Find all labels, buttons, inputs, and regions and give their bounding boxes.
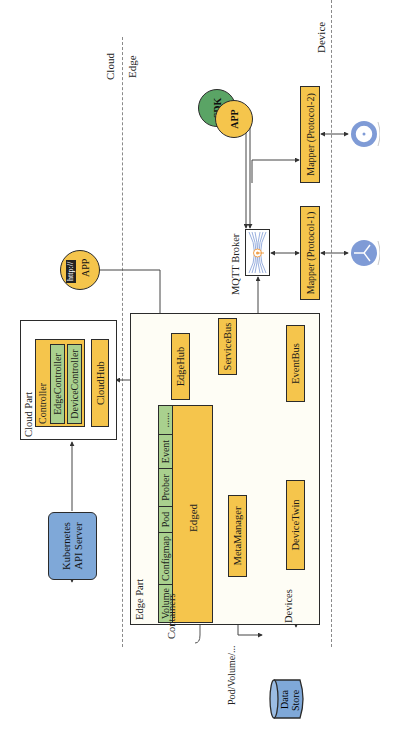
kubernetes-api-server: Kubernetes API Server [48, 512, 97, 580]
fan-device-icon [348, 236, 380, 268]
cloud-part-frame: Cloud Part Controller EdgeController Dev… [20, 320, 117, 440]
devicetwin-box: DeviceTwin [286, 480, 305, 570]
api-server-label: API Server [73, 523, 85, 570]
http-app-label: APP [80, 259, 91, 277]
data-store-line2: Store [290, 690, 301, 711]
mqtt-broker-label: MQTT Broker [230, 234, 241, 295]
edgehub-box: EdgeHub [171, 333, 190, 400]
mqtt-broker-icon [246, 230, 269, 275]
module-event: Event [159, 434, 173, 468]
module-configmap: Configmap [159, 532, 173, 584]
module-more: ...... [159, 406, 173, 434]
mapper-protocol-2: Mapper (Protocol-2) [300, 86, 320, 183]
cloudhub-box: CloudHub [91, 339, 109, 427]
edge-controller-box: EdgeController [50, 344, 65, 424]
servicebus-box: ServiceBus [218, 318, 237, 375]
module-prober: Prober [159, 468, 173, 506]
pod-volume-label: Pod/Volume/... [226, 645, 237, 705]
cloud-part-title: Cloud Part [23, 392, 34, 437]
device-controller-box: DeviceController [67, 344, 82, 424]
module-pod: Pod [159, 506, 173, 532]
edged-modules-row: Volume Configmap Pod Prober Event ...... [159, 406, 173, 622]
edged-box: Volume Configmap Pod Prober Event ......… [158, 405, 213, 623]
mapper-protocol-1: Mapper (Protocol-1) [300, 206, 320, 300]
containers-label: Containers [166, 594, 177, 640]
devices-label: Devices [283, 589, 294, 623]
controller-box: Controller EdgeController DeviceControll… [35, 339, 85, 427]
http-app-bubble: http:// APP [60, 250, 100, 290]
app-label: APP [229, 109, 240, 128]
mqtt-broker-box[interactable] [245, 229, 270, 276]
http-badge: http:// [66, 260, 76, 283]
edged-label: Edged [187, 504, 199, 532]
app-bubble: APP [215, 100, 253, 138]
controller-label: Controller [37, 383, 48, 424]
sensor-device-icon [348, 117, 380, 149]
eventbus-box: EventBus [286, 325, 305, 402]
data-store-line1: Data [279, 690, 290, 709]
data-store-cylinder: Data Store [268, 677, 306, 721]
metamanager-box: MetaManager [228, 495, 247, 577]
edge-part-title: Edge Part [134, 579, 145, 620]
kubernetes-label: Kubernetes [61, 522, 73, 570]
kubeedge-architecture-diagram: Cloud Edge Device Device [0, 0, 399, 735]
